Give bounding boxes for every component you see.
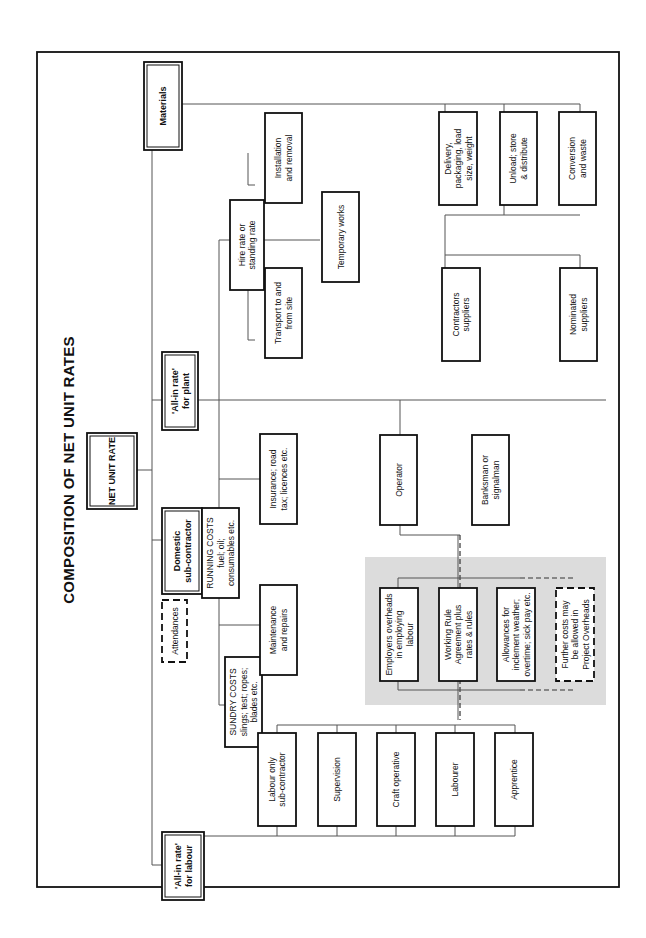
label-line: signalman	[491, 460, 501, 499]
nominated-suppliers-node-label: Nominatedsuppliers	[568, 294, 589, 335]
label-line: standing rate	[247, 220, 257, 269]
insurance-node: Insurance; roadtax; licences etc.	[260, 434, 297, 524]
insurance-node-label: Insurance; roadtax; licences etc.	[268, 448, 289, 511]
unload-node-label: Unload; store& distribute	[508, 133, 529, 184]
label-line: Banksman or	[480, 455, 490, 505]
plant-rate-node: 'All-in rate'for plant	[162, 352, 198, 430]
supervision-node: Supervision	[318, 733, 356, 826]
label-line: NET UNIT RATE	[107, 437, 117, 505]
hire-rate-node: Hire rate orstanding rate	[230, 200, 264, 290]
label-line: inclement weather;	[511, 599, 521, 670]
label-line: Delivery,	[443, 142, 453, 174]
label-line: Working Rule	[443, 609, 453, 660]
label-line: Insurance; road	[268, 449, 278, 508]
label-line: overtime; sick pay etc.	[522, 592, 532, 676]
operator-node-label: Operator	[394, 463, 404, 497]
apprentice-node-label: Apprentice	[509, 759, 519, 800]
label-line: Attendances	[170, 607, 180, 654]
label-line: and repairs	[279, 609, 289, 652]
domestic-subcontractor-node: Domesticsub-contractor	[162, 508, 202, 594]
temporary-works-node: Temporary works	[322, 192, 359, 282]
label-line: Project Overheads	[581, 599, 591, 669]
label-line: Hire rate or	[237, 224, 247, 267]
label-line: SUNDRY COSTS	[228, 668, 238, 736]
label-line: slings; test; ropes;	[239, 668, 249, 737]
banksman-node: Banksman orsignalman	[472, 435, 509, 525]
materials-node-label: Materials	[158, 86, 168, 125]
label-line: Operator	[394, 463, 404, 497]
label-line: Supervision	[332, 757, 342, 802]
net-unit-rates-diagram: COMPOSITION OF NET UNIT RATESNET UNIT RA…	[0, 0, 646, 938]
label-line: fuel; oil;	[216, 538, 226, 567]
label-line: for labour	[184, 845, 194, 887]
banksman-node-label: Banksman orsignalman	[480, 455, 501, 505]
label-line: and removal	[284, 135, 294, 182]
working-rule-node-label: Working RuleAgreement plusrates & rules	[443, 605, 474, 665]
label-line: Contractors	[451, 293, 461, 337]
label-line: tax; licences etc.	[279, 448, 289, 511]
transport-node: Transport to andfrom site	[265, 268, 302, 358]
label-line: Apprentice	[509, 759, 519, 800]
labour-only-subcontractor-node: Labour onlysub-contractor	[258, 733, 296, 826]
working-rule-node: Working RuleAgreement plusrates & rules	[439, 588, 477, 681]
apprentice-node: Apprentice	[495, 733, 533, 826]
sundry-costs-node: SUNDRY COSTSslings; test; ropes;blades e…	[225, 657, 262, 747]
label-line: Materials	[158, 86, 168, 125]
maintenance-node: Maintenanceand repairs	[260, 585, 297, 675]
label-line: rates & rules	[464, 611, 474, 659]
labour-rate-node-label: 'All-in rate'for labour	[173, 843, 194, 889]
label-line: Maintenance	[268, 605, 278, 654]
label-line: from site	[284, 296, 294, 329]
allowances-node: Allowances forinclement weather;overtime…	[497, 588, 535, 681]
label-line: Domestic	[172, 531, 182, 572]
supervision-node-label: Supervision	[332, 757, 342, 802]
employers-overheads-node: Employers overheadsin employinglabour	[380, 588, 418, 681]
label-line: Employers overheads	[384, 593, 394, 675]
label-line: suppliers	[579, 297, 589, 331]
label-line: labour	[405, 623, 415, 647]
labour-only-subcontractor-node-label: Labour onlysub-contractor	[267, 752, 288, 806]
plant-rate-node-label: 'All-in rate'for plant	[170, 368, 191, 414]
label-line: be allowed in	[570, 609, 580, 659]
label-line: Temporary works	[336, 205, 346, 270]
labourer-node: Labourer	[436, 733, 474, 826]
operator-node: Operator	[380, 435, 417, 525]
craft-operative-node-label: Craft operative	[391, 751, 401, 807]
label-line: Unload; store	[508, 133, 518, 184]
label-line: sub-contractor	[277, 752, 287, 806]
label-line: size, weight	[464, 136, 474, 181]
connectors	[137, 104, 606, 865]
further-costs-node-label: Further costs maybe allowed inProject Ov…	[560, 599, 591, 669]
nominated-suppliers-node: Nominatedsuppliers	[560, 268, 597, 361]
conversion-node-label: Conversionand waste	[567, 137, 588, 180]
label-line: Nominated	[568, 294, 578, 335]
label-line: consumables etc.	[226, 520, 236, 586]
temporary-works-node-label: Temporary works	[336, 205, 346, 270]
label-line: in employing	[394, 610, 404, 658]
further-costs-node: Further costs maybe allowed inProject Ov…	[556, 588, 594, 681]
conversion-node: Conversionand waste	[559, 112, 596, 205]
materials-node: Materials	[144, 62, 182, 150]
maintenance-node-label: Maintenanceand repairs	[268, 605, 289, 654]
label-line: 'All-in rate'	[170, 368, 180, 414]
running-costs-node: RUNNING COSTSfuel; oil;consumables etc.	[202, 508, 239, 598]
attendances-node-label: Attendances	[170, 607, 180, 654]
installation-node-label: Installationand removal	[273, 135, 294, 182]
label-line: Transport to and	[273, 282, 283, 344]
attendances-node: Attendances	[162, 600, 187, 662]
label-line: Allowances for	[501, 607, 511, 662]
label-line: packaging, load	[453, 128, 463, 188]
page-title: COMPOSITION OF NET UNIT RATES	[60, 336, 77, 604]
labour-rate-node: 'All-in rate'for labour	[162, 832, 204, 900]
hire-rate-node-label: Hire rate orstanding rate	[237, 220, 258, 269]
label-line: Installation	[273, 137, 283, 178]
label-line: Craft operative	[391, 751, 401, 807]
contractors-suppliers-node-label: Contractorssuppliers	[451, 293, 472, 337]
label-line: suppliers	[461, 297, 471, 331]
installation-node: Installationand removal	[265, 113, 302, 203]
label-line: and waste	[578, 139, 588, 178]
label-line: Labourer	[450, 762, 460, 796]
net-unit-rate-node-label: NET UNIT RATE	[107, 437, 117, 505]
contractors-suppliers-node: Contractorssuppliers	[442, 268, 480, 361]
delivery-node: Delivery,packaging, loadsize, weight	[439, 112, 477, 205]
